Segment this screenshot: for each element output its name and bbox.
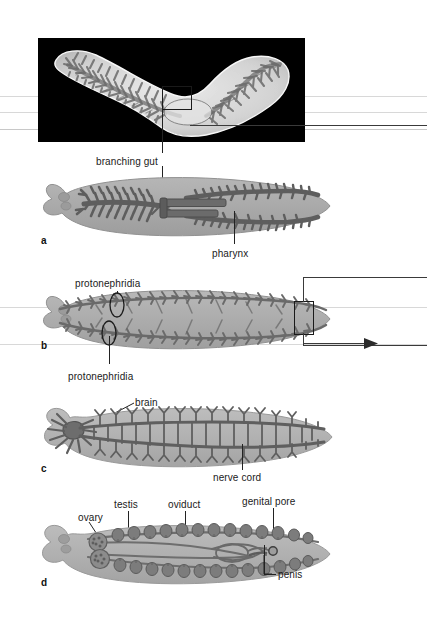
label-protonephridia-bottom: protonephridia: [68, 372, 133, 382]
pharynx-leader: [234, 211, 235, 244]
panel-letter-c: c: [41, 464, 47, 474]
panel-letter-a: a: [41, 236, 47, 246]
micrograph-photo: [38, 38, 305, 142]
label-oviduct: oviduct: [168, 500, 200, 510]
panel-b-callout-box: [294, 301, 314, 335]
label-pharynx: pharynx: [212, 249, 248, 259]
panel-b-callout-leader-top: [303, 277, 427, 278]
panel-b-callout-leader-up: [303, 277, 304, 302]
penis-leader-stem: [264, 545, 265, 575]
panel-b-arrow-stem: [303, 343, 368, 344]
photo-callout-box: [162, 86, 192, 110]
photo-callout-leader-right: [190, 125, 427, 126]
nerve-cord-leader: [242, 444, 243, 470]
panel-b-diagram: [36, 281, 336, 356]
label-testis: testis: [114, 500, 138, 510]
branching-gut-leader: [162, 108, 163, 153]
label-penis: penis: [278, 570, 302, 580]
panel-b-arrowhead-icon: [364, 337, 380, 351]
penis-leader-elbow: [264, 574, 276, 575]
label-nerve-cord: nerve cord: [213, 473, 261, 483]
protonephridia-bottom-leader: [109, 336, 110, 364]
panel-c-diagram: [36, 400, 336, 478]
figure-plate: branching gut: [0, 0, 427, 627]
panel-letter-d: d: [41, 578, 47, 588]
label-genital-pore: genital pore: [242, 497, 295, 507]
panel-letter-b: b: [41, 341, 47, 351]
label-branching-gut: branching gut: [96, 157, 158, 167]
panel-a-diagram: [36, 172, 336, 240]
